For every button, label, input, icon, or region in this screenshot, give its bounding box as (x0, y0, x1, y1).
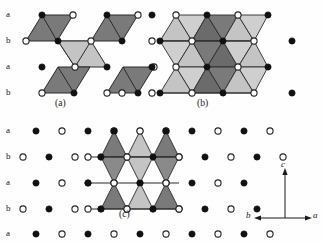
atom-open (104, 90, 110, 96)
atom-filled (71, 90, 77, 96)
atom-filled (39, 12, 45, 18)
atom-open (70, 12, 76, 18)
axis-label-a: a (313, 211, 318, 220)
row-label-b-bot-2: b (6, 204, 11, 213)
atom-filled (104, 64, 110, 70)
octahedron-a-center (58, 41, 107, 67)
atom-filled (55, 38, 61, 44)
atom-open (72, 64, 78, 70)
atom-filled (119, 38, 125, 44)
atom-open (88, 38, 94, 44)
atom-open (23, 38, 29, 44)
atom-open (135, 12, 141, 18)
atom-open (39, 90, 45, 96)
row-label-a-bot-1: a (6, 126, 10, 135)
panel-label-c: (c) (119, 210, 130, 220)
figure-canvas: a b a b a b a b a (a) (b) (c) c b a (0, 0, 322, 244)
axis-label-c: c (281, 160, 285, 169)
row-label-a-bot-3: a (6, 229, 10, 238)
row-label-b-bot-1: b (6, 152, 11, 161)
axis-legend (254, 168, 312, 221)
atom-filled (104, 12, 110, 18)
atom-filled (39, 64, 45, 70)
panel-label-a: (a) (55, 99, 66, 109)
octahedron-a2 (91, 15, 138, 41)
octahedron-a1 (26, 15, 73, 41)
row-label-b-top-2: b (6, 88, 11, 97)
panel-label-b: (b) (197, 99, 208, 109)
octahedron-a3 (42, 67, 90, 93)
panel-b-polyhedra (157, 12, 271, 96)
atom-filled (135, 90, 141, 96)
structure-drawing (0, 0, 322, 244)
panel-a-polyhedra (23, 12, 157, 96)
row-label-a-bot-2: a (6, 178, 10, 187)
panel-c-polyhedra (85, 128, 182, 212)
row-label-a-top-2: a (6, 62, 10, 71)
row-label-b-top-1: b (6, 36, 11, 45)
row-label-a-top-1: a (6, 10, 10, 19)
octahedron-a4 (107, 67, 154, 93)
lattice-dots-right-top (289, 38, 295, 96)
axis-label-b: b (246, 211, 251, 220)
